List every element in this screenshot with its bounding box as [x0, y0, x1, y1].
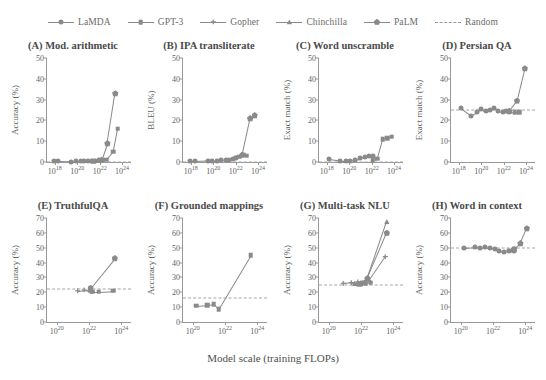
y-tick-mark [44, 232, 47, 233]
data-point [216, 307, 221, 312]
square-marker-icon [96, 289, 101, 294]
x-tick-label: 1022 [354, 325, 368, 336]
pentagon-marker-icon [112, 90, 118, 96]
circle-marker-icon [461, 245, 466, 250]
pentagon-marker-icon [511, 246, 517, 252]
x-tick-label: 1020 [342, 165, 356, 176]
legend-line [200, 22, 226, 23]
circle-marker-icon [469, 113, 474, 118]
legend-item-gopher[interactable]: Gopher [200, 17, 259, 27]
x-tick-label: 1020 [186, 325, 200, 336]
plot-area: 010203040501018102010221024 [318, 58, 403, 163]
y-tick-label: 50 [172, 243, 180, 252]
data-point [459, 105, 464, 110]
y-tick-mark [180, 322, 183, 323]
data-point [469, 113, 474, 118]
x-tick-label: 1022 [93, 165, 107, 176]
y-tick-mark [44, 292, 47, 293]
y-tick-label: 40 [172, 74, 180, 83]
x-tick-label: 1024 [115, 165, 129, 176]
y-tick-label: 30 [172, 273, 180, 282]
y-tick-mark [448, 78, 451, 79]
legend-triangle-marker-icon [287, 19, 293, 24]
x-tick-label: 1024 [251, 165, 265, 176]
y-tick-label: 10 [172, 137, 180, 146]
y-axis-label: Exact match (%) [281, 58, 293, 162]
panel-title: (D) Persian QA [412, 40, 542, 51]
square-marker-icon [115, 126, 120, 131]
y-tick-mark [448, 262, 451, 263]
y-tick-mark [180, 58, 183, 59]
panel-c-word-unscramble: (C) Word unscrambleExact match (%)010203… [280, 40, 410, 185]
y-axis-label: Accuracy (%) [9, 218, 21, 322]
panel-e-truthfulqa: (E) TruthfulQAAccuracy (%)01020304050607… [8, 200, 138, 345]
data-point [205, 303, 210, 308]
panel-f-grounded-mappings: (F) Grounded mappingsAccuracy (%)0102030… [144, 200, 274, 345]
panel-title: (C) Word unscramble [280, 40, 410, 51]
panel-title: (H) Word in context [412, 200, 542, 211]
legend-line [48, 22, 74, 23]
y-tick-mark [44, 120, 47, 121]
legend-item-lamda[interactable]: LaMDA [48, 17, 111, 27]
y-tick-mark [448, 58, 451, 59]
legend-item-gpt-3[interactable]: GPT-3 [128, 17, 184, 27]
data-point [249, 253, 254, 258]
x-tick-label: 1022 [497, 165, 511, 176]
square-marker-icon [517, 110, 522, 115]
legend-label: LaMDA [78, 17, 111, 27]
square-marker-icon [249, 253, 254, 258]
legend: LaMDAGPT-3GopherChinchillaPaLMRandom [0, 12, 546, 32]
data-point [112, 255, 118, 261]
data-point [384, 219, 390, 224]
y-tick-mark [316, 292, 319, 293]
y-tick-mark [316, 141, 319, 142]
plus-marker-icon [383, 254, 388, 259]
y-tick-label: 0 [312, 158, 316, 167]
data-point [511, 246, 517, 252]
panel-g-multi-task-nlu: (G) Multi-task NLUAccuracy (%)0102030405… [280, 200, 410, 345]
circle-marker-icon [459, 105, 464, 110]
y-tick-mark [316, 262, 319, 263]
y-tick-mark [180, 307, 183, 308]
y-tick-mark [316, 277, 319, 278]
y-tick-label: 20 [172, 288, 180, 297]
y-tick-mark [316, 322, 319, 323]
data-point [96, 289, 101, 294]
y-tick-mark [44, 99, 47, 100]
x-tick-label: 1024 [250, 325, 264, 336]
x-tick-label: 1024 [518, 325, 532, 336]
y-tick-label: 10 [36, 303, 44, 312]
y-tick-label: 40 [440, 74, 448, 83]
legend-item-palm[interactable]: PaLM [364, 17, 418, 27]
y-tick-label: 30 [36, 95, 44, 104]
legend-item-chinchilla[interactable]: Chinchilla [276, 17, 347, 27]
pentagon-marker-icon [99, 157, 105, 163]
plot-area: 010203040501018102010221024 [182, 58, 267, 163]
y-tick-label: 40 [308, 74, 316, 83]
x-tick-label: 1022 [365, 165, 379, 176]
y-tick-label: 60 [440, 228, 448, 237]
circle-marker-icon [193, 159, 198, 164]
y-tick-label: 20 [308, 116, 316, 125]
y-tick-mark [316, 58, 319, 59]
x-tick-label: 1024 [387, 165, 401, 176]
y-tick-mark [44, 218, 47, 219]
circle-marker-icon [338, 158, 343, 163]
triangle-marker-icon [384, 219, 390, 224]
legend-label: Gopher [230, 17, 259, 27]
data-point [91, 159, 96, 164]
legend-plus-marker-icon [211, 19, 216, 24]
data-point [239, 152, 245, 158]
y-tick-mark [448, 277, 451, 278]
y-tick-label: 10 [440, 137, 448, 146]
y-tick-mark [180, 78, 183, 79]
y-tick-label: 30 [308, 95, 316, 104]
y-tick-mark [44, 141, 47, 142]
data-point [193, 159, 198, 164]
x-tick-label: 1020 [454, 325, 468, 336]
y-tick-label: 10 [172, 303, 180, 312]
panel-title: (F) Grounded mappings [144, 200, 274, 211]
y-tick-label: 40 [172, 258, 180, 267]
legend-item-random[interactable]: Random [435, 17, 498, 27]
data-point [56, 159, 61, 164]
